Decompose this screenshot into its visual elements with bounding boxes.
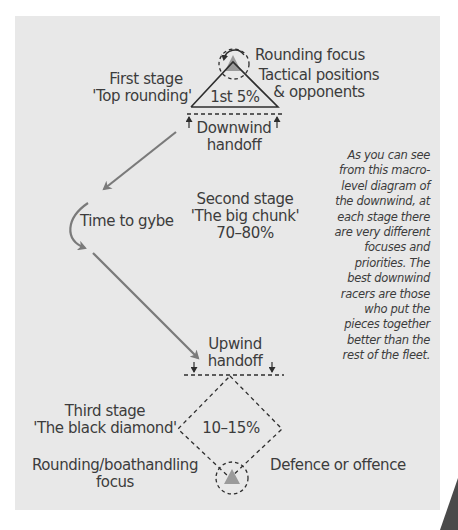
caption-line: rest of the fleet. <box>300 348 430 363</box>
caption-line: who put the <box>300 302 430 317</box>
caption-line: from this macro- <box>300 163 430 178</box>
caption-line: priorities. The <box>300 256 430 271</box>
caption-line: pieces together <box>300 317 430 332</box>
caption-line: racers are those <box>300 287 430 302</box>
second-stage-title: Second stage <box>185 191 305 208</box>
caption-line: As you can see <box>300 148 430 163</box>
second-stage-subtitle: 'The big chunk' <box>185 208 305 225</box>
caption-line: are very different <box>300 225 430 240</box>
caption-line: the downwind, at <box>300 194 430 209</box>
third-stage-subtitle: 'The black diamond' <box>30 420 180 437</box>
caption-paragraph: As you can see from this macro- level di… <box>300 148 430 364</box>
second-stage-percent: 70–80% <box>185 225 305 242</box>
tactical-positions-label: Tactical positions <box>256 67 382 84</box>
downwind-handoff-label-2: handoff <box>194 137 274 154</box>
rounding-focus-label: Rounding focus <box>255 47 365 64</box>
upwind-handoff-label-2: handoff <box>200 353 270 370</box>
time-to-gybe-label: Time to gybe <box>80 213 174 230</box>
first-stage-subtitle: 'Top rounding' <box>92 88 192 105</box>
downwind-handoff-label-1: Downwind <box>194 120 274 137</box>
path-arrow-leg1 <box>104 132 176 189</box>
path-arrow-leg2 <box>93 253 198 358</box>
third-stage-title: Third stage <box>50 403 160 420</box>
caption-line: each stage there <box>300 210 430 225</box>
rounding-boathandling-label-2: focus <box>30 474 200 491</box>
third-stage-percent: 10–15% <box>198 420 264 437</box>
first-stage-title: First stage <box>100 71 192 88</box>
upwind-handoff-label-1: Upwind <box>200 336 270 353</box>
defence-offence-label: Defence or offence <box>270 457 406 474</box>
opponents-label: & opponents <box>256 84 382 101</box>
caption-line: best downwind <box>300 271 430 286</box>
rounding-boathandling-label-1: Rounding/boathandling <box>30 457 200 474</box>
caption-line: better than the <box>300 333 430 348</box>
caption-line: level diagram of <box>300 179 430 194</box>
caption-line: focuses and <box>300 240 430 255</box>
